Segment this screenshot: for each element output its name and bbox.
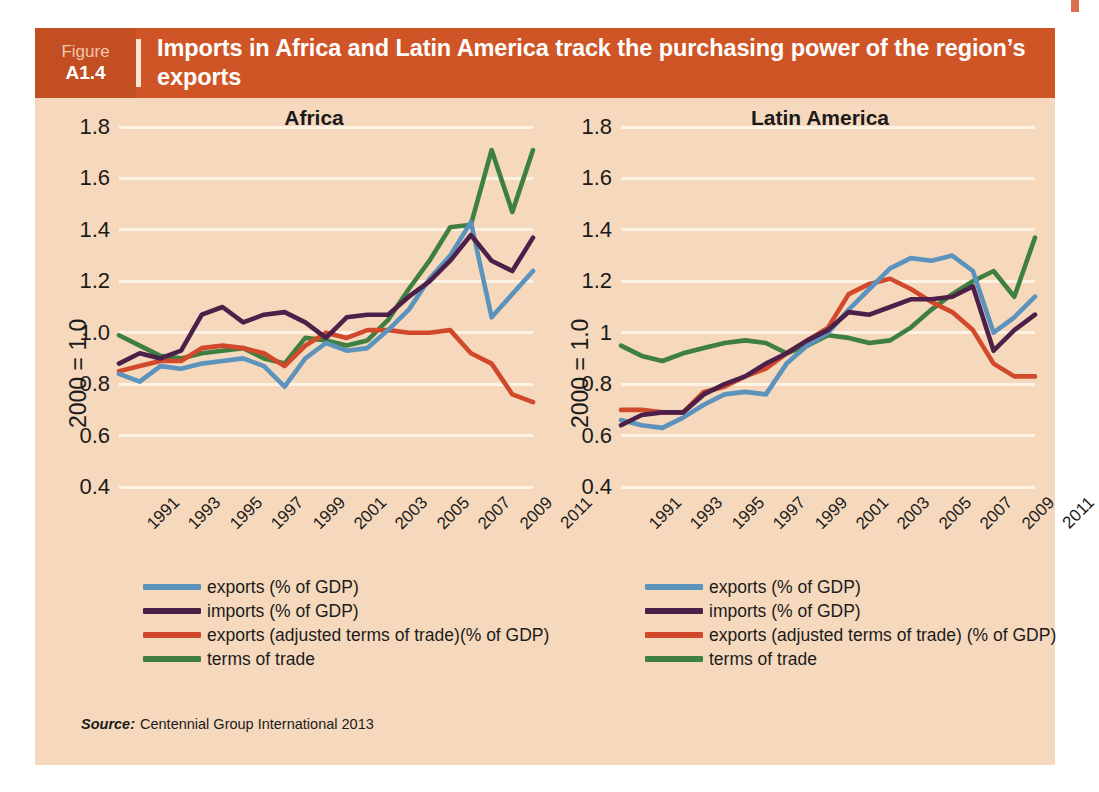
chart-panel-latin-america: Latin America 2000 = 1.0 0.40.60.811.21.… [545,98,1055,658]
legend-label: exports (% of GDP) [709,577,861,598]
figure-header: Figure A1.4 Imports in Africa and Latin … [35,28,1055,98]
legend-latin-america: exports (% of GDP)imports (% of GDP)expo… [645,576,1056,672]
y-axis-tick-label: 1.2 [79,268,110,294]
legend-swatch-imports [143,608,201,614]
x-axis-tick-label: 1995 [226,493,267,534]
y-axis-tick-label: 1.4 [79,217,110,243]
legend-label: exports (adjusted terms of trade) (% of … [709,625,1056,646]
y-axis-tick-label: 0.4 [79,474,110,500]
x-axis-tick-label: 2009 [1018,493,1059,534]
legend-label: exports (% of GDP) [207,577,359,598]
legend-item[interactable]: exports (adjusted terms of trade)(% of G… [143,624,549,646]
y-axis-tick-label: 1.4 [581,217,612,243]
figure-title: Imports in Africa and Latin America trac… [141,28,1055,98]
legend-swatch-terms_of_trade [143,656,201,662]
x-axis-tick-label: 1999 [811,493,852,534]
legend-label: exports (adjusted terms of trade)(% of G… [207,625,549,646]
legend-item[interactable]: exports (% of GDP) [645,576,1056,598]
legend-africa: exports (% of GDP)imports (% of GDP)expo… [143,576,549,672]
series-line-imports [621,286,1035,425]
legend-swatch-exports [645,584,703,590]
figure-panel: Figure A1.4 Imports in Africa and Latin … [35,28,1055,765]
figure-label-word: Figure [61,43,109,61]
legend-swatch-exports [143,584,201,590]
legend-item[interactable]: terms of trade [143,648,549,670]
legend-swatch-terms_of_trade [645,656,703,662]
y-axis-tick-label: 1 [600,320,612,346]
y-axis-tick-label: 0.6 [79,423,110,449]
legend-label: terms of trade [709,649,817,670]
x-axis-tick-label: 1993 [184,493,225,534]
page-running-header [0,0,1082,14]
x-axis-tick-label: 1995 [728,493,769,534]
y-axis-tick-label: 0.6 [581,423,612,449]
x-axis-tick-label: 2011 [1059,493,1099,533]
chart-panel-africa: Africa 2000 = 1.0 0.40.60.81.01.21.41.61… [35,98,545,658]
x-axis-tick-label: 1991 [143,493,184,534]
y-axis-tick-label: 1.8 [79,114,110,140]
page-corner-mark [1071,0,1079,12]
y-axis-tick-label: 0.8 [79,371,110,397]
x-axis-tick-label: 2001 [852,493,893,534]
x-axis-tick-label: 2003 [391,493,432,534]
figure-number-box: Figure A1.4 [35,28,136,98]
y-axis-tick-label: 0.8 [581,371,612,397]
legend-item[interactable]: exports (% of GDP) [143,576,549,598]
source-line: Source:Centennial Group International 20… [81,716,374,732]
series-layer [621,127,1035,487]
source-word: Source: [81,716,135,732]
x-axis-tick-label: 2005 [433,493,474,534]
x-axis-tick-label: 1997 [769,493,810,534]
series-line-terms_of_trade [621,238,1035,361]
y-axis-tick-label: 1.0 [79,320,110,346]
x-axis-tick-label: 1999 [309,493,350,534]
x-axis-tick-label: 2007 [474,493,515,534]
x-axis-tick-label: 2003 [893,493,934,534]
x-axis-tick-label: 2007 [976,493,1017,534]
legend-swatch-exports_adjusted [645,632,703,638]
y-axis-tick-label: 0.4 [581,474,612,500]
legend-label: imports (% of GDP) [207,601,359,622]
plot-area-africa: 0.40.60.81.01.21.41.61.81991199319951997… [119,127,533,487]
plot-area-latin-america: 0.40.60.811.21.41.61.8199119931995199719… [621,127,1035,487]
x-axis-tick-label: 1991 [645,493,686,534]
legend-label: terms of trade [207,649,315,670]
series-line-exports_adjusted [621,279,1035,413]
legend-item[interactable]: terms of trade [645,648,1056,670]
legend-label: imports (% of GDP) [709,601,861,622]
y-axis-tick-label: 1.6 [581,165,612,191]
legend-swatch-imports [645,608,703,614]
y-axis-tick-label: 1.8 [581,114,612,140]
x-axis-tick-label: 2005 [935,493,976,534]
y-axis-tick-label: 1.6 [79,165,110,191]
x-axis-tick-label: 1997 [267,493,308,534]
legend-item[interactable]: exports (adjusted terms of trade) (% of … [645,624,1056,646]
legend-item[interactable]: imports (% of GDP) [645,600,1056,622]
source-text: Centennial Group International 2013 [140,716,374,732]
legend-item[interactable]: imports (% of GDP) [143,600,549,622]
x-axis-tick-label: 2001 [350,493,391,534]
legend-swatch-exports_adjusted [143,632,201,638]
y-axis-tick-label: 1.2 [581,268,612,294]
x-axis-tick-label: 1993 [686,493,727,534]
figure-number: A1.4 [65,63,105,84]
series-layer [119,127,533,487]
